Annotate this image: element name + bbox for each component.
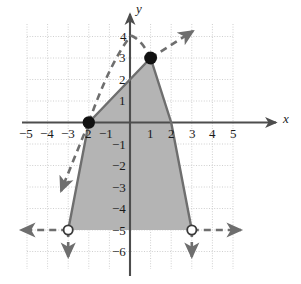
graph-figure: x y −5 −4 −3 2 −1 1 2 3 4 5 4 3 2 1 −1 −… [0, 0, 301, 284]
ytick-neg2: −2 [112, 159, 126, 172]
xtick-5: 5 [230, 127, 237, 140]
ytick-neg6: −6 [112, 245, 126, 258]
ytick-4: 4 [120, 30, 127, 43]
closed-point-1-3 [144, 52, 157, 65]
xtick-3: 3 [189, 127, 196, 140]
ytick-1: 1 [119, 94, 126, 107]
xtick-neg1: −1 [99, 127, 113, 140]
ytick-neg5: −5 [112, 224, 126, 237]
coordinate-plane-svg [0, 0, 301, 284]
dashed-branch-right-ascending [151, 31, 193, 58]
ytick-neg1: −1 [112, 138, 126, 151]
xtick-neg3: −3 [61, 127, 75, 140]
xtick-1: 1 [147, 127, 154, 140]
open-point-neg3-neg5 [64, 225, 73, 234]
open-point-3-neg5 [187, 225, 196, 234]
xtick-4: 4 [209, 127, 216, 140]
xtick-neg5: −5 [19, 127, 33, 140]
x-axis-label: x [283, 112, 289, 125]
y-axis-label: y [136, 2, 142, 15]
xtick-2: 2 [168, 127, 175, 140]
xtick-neg2: 2 [85, 127, 92, 140]
ytick-2: 2 [119, 73, 126, 86]
ytick-neg3: −3 [112, 181, 126, 194]
ytick-3: 3 [119, 51, 126, 64]
ytick-neg4: −4 [112, 202, 126, 215]
xtick-neg4: −4 [40, 127, 54, 140]
